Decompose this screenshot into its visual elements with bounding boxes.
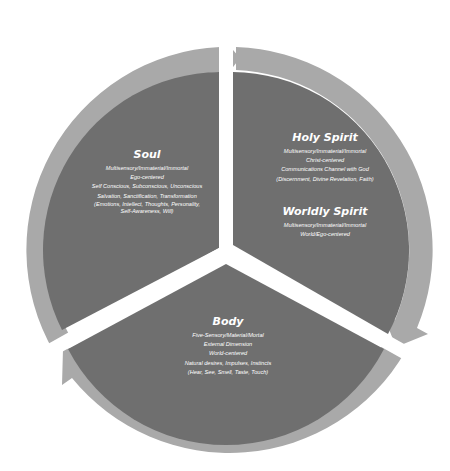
holy-spirit-line: Communications Channel with God: [240, 165, 410, 174]
body-segment-text: Body Five-Sensory/Material/Mortal Extern…: [143, 315, 313, 377]
body-line: Five-Sensory/Material/Mortal: [143, 331, 313, 340]
soul-line: Salvation, Sanctification, Transformatio…: [62, 192, 232, 201]
soul-segment-text: Soul Multisensory/Immaterial/Immortal Eg…: [62, 148, 232, 215]
body-title: Body: [143, 315, 313, 328]
soul-line: Self Conscious, Subconscious, Unconsciou…: [62, 182, 232, 191]
worldly-spirit-title: Worldly Spirit: [240, 205, 410, 218]
holy-spirit-line: Multisensory/Immaterial/Immortal: [240, 147, 410, 156]
body-line: Natural desires, Impulses, Instincts: [143, 359, 313, 368]
holy-spirit-line: Christ-centered: [240, 156, 410, 165]
soul-line: (Emotions, Intellect, Thoughts, Personal…: [62, 201, 232, 208]
holy-spirit-title: Holy Spirit: [240, 131, 410, 144]
worldly-spirit-segment-text: Worldly Spirit Multisensory/Immaterial/I…: [240, 205, 410, 239]
soul-line: Ego-centered: [62, 173, 232, 182]
holy-spirit-segment-text: Holy Spirit Multisensory/Immaterial/Immo…: [240, 131, 410, 184]
worldly-spirit-line: Multisensory/Immaterial/Immortal: [240, 221, 410, 230]
holy-spirit-line: (Discernment, Divine Revelation, Faith): [240, 175, 410, 184]
soul-line: Self-Awareness, Will): [62, 208, 232, 215]
body-line: (Hear, See, Smell, Taste, Touch): [143, 368, 313, 377]
soul-line: Multisensory/Immaterial/Immortal: [62, 164, 232, 173]
body-line: External Dimension: [143, 340, 313, 349]
body-line: World-centered: [143, 349, 313, 358]
soul-title: Soul: [62, 148, 232, 161]
worldly-spirit-line: World/Ego-centered: [240, 230, 410, 239]
